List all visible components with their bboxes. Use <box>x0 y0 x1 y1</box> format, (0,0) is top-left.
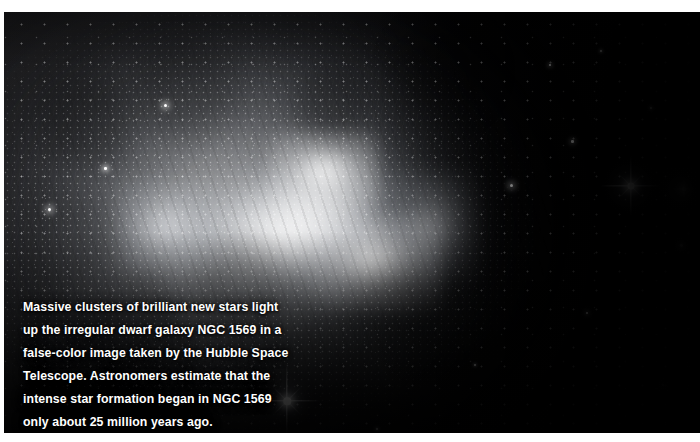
page-root: Massive clusters of brilliant new stars … <box>0 0 700 442</box>
figure-caption-text: Massive clusters of brilliant new stars … <box>23 296 323 433</box>
figure-caption: Massive clusters of brilliant new stars … <box>23 296 323 433</box>
astronomy-photo: Massive clusters of brilliant new stars … <box>4 12 700 433</box>
